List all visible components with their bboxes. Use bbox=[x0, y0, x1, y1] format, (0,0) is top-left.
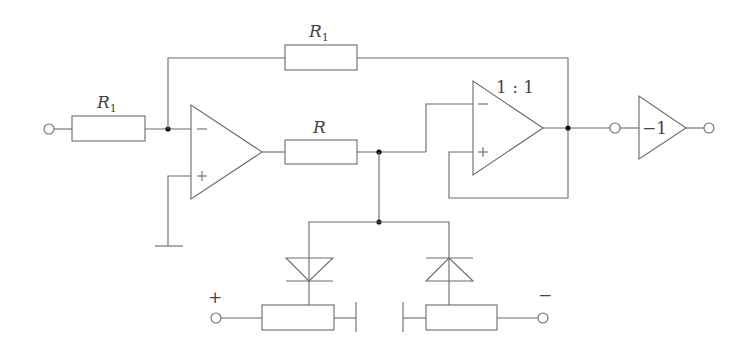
potentiometer-positive bbox=[211, 302, 356, 332]
label-follower-ratio: 1 : 1 bbox=[496, 77, 534, 97]
resistor-r1-input bbox=[72, 116, 191, 141]
output-terminal bbox=[610, 123, 620, 133]
circuit-diagram: R1 R1 R 1 : 1 bbox=[0, 0, 753, 357]
potentiometer-negative bbox=[403, 302, 548, 332]
ground bbox=[155, 176, 191, 246]
final-output-terminal bbox=[704, 123, 714, 133]
wire bbox=[309, 222, 449, 258]
diode-left bbox=[286, 258, 333, 305]
label-supply-positive: + bbox=[208, 287, 222, 307]
label-inverter-gain: −1 bbox=[642, 118, 667, 138]
label-r1-feedback: R1 bbox=[308, 21, 329, 44]
wire bbox=[426, 104, 473, 152]
junction-dot bbox=[565, 125, 570, 130]
resistor-r1-feedback bbox=[285, 45, 357, 70]
opamp-1 bbox=[191, 105, 262, 199]
label-r-series: R bbox=[312, 117, 326, 137]
label-supply-negative: − bbox=[538, 285, 552, 305]
label-r1-input: R1 bbox=[96, 92, 117, 115]
diode-right bbox=[426, 258, 473, 305]
resistor-r-series bbox=[285, 140, 357, 164]
input-terminal bbox=[44, 124, 72, 134]
